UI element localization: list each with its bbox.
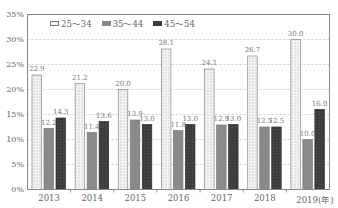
bar-value-label: 16.0 [308,100,332,108]
bar-value-label: 24.1 [197,59,221,67]
legend-swatch-dark-icon [153,21,162,26]
bar-value-label: 11.4 [80,123,104,131]
x-tick-label: 2019(年) [290,193,338,205]
y-tick-label: 10% [0,135,24,145]
y-tick-label: 0% [0,185,24,195]
bar [99,122,109,190]
bar [173,131,183,190]
bar [118,90,128,190]
bar [56,118,66,190]
y-tick-label: 35% [0,10,24,20]
y-tick-label: 25% [0,60,24,70]
bar-value-label: 13.0 [135,115,159,123]
legend-swatch-dotted-icon [50,21,59,26]
bar-value-label: 30.0 [284,30,308,38]
legend-item-25-34: 25～34 [50,17,92,29]
bar [260,127,270,190]
x-tick-label: 2016 [157,193,200,203]
bar [130,120,140,190]
x-tick-label: 2018 [243,193,286,203]
bar [229,125,239,190]
legend-label: 35～44 [113,17,144,29]
bar-value-label: 13.6 [92,112,116,120]
bar [32,75,42,190]
legend-label: 25～34 [61,17,92,29]
bar [272,127,282,190]
bar [217,125,227,190]
bar [161,49,171,190]
bar [315,110,325,190]
bar [205,69,215,190]
bar [142,125,152,190]
bar [44,129,54,190]
bar [303,140,313,190]
bar-value-label: 12.5 [264,117,288,125]
y-tick-label: 30% [0,35,24,45]
x-tick-label: 2014 [71,193,114,203]
bar-value-label: 26.7 [240,46,264,54]
bar-value-label: 28.1 [154,39,178,47]
x-tick-label: 2013 [28,193,71,203]
y-tick-label: 15% [0,110,24,120]
bar-value-label: 13.0 [221,115,245,123]
bar [185,125,195,190]
bar-value-label: 21.2 [68,74,92,82]
bar-value-label: 12.2 [37,119,61,127]
bar-value-label: 22.9 [25,65,49,73]
bar [75,84,85,190]
legend: 25～34 35～44 45～54 [50,17,195,29]
bar-chart: 0%5%10%15%20%25%30%35% 20132014201520162… [0,0,338,208]
y-tick-label: 20% [0,85,24,95]
bar [87,133,97,190]
y-tick-label: 5% [0,160,24,170]
legend-swatch-gray-icon [102,21,111,26]
bar-value-label: 10.0 [296,130,320,138]
x-tick-label: 2015 [114,193,157,203]
bar-value-label: 20.0 [111,80,135,88]
bar-value-label: 14.3 [49,108,73,116]
legend-item-35-44: 35～44 [102,17,144,29]
bar-value-label: 13.0 [178,115,202,123]
bar [291,40,301,190]
legend-label: 45～54 [164,17,195,29]
legend-item-45-54: 45～54 [153,17,195,29]
x-tick-label: 2017 [200,193,243,203]
